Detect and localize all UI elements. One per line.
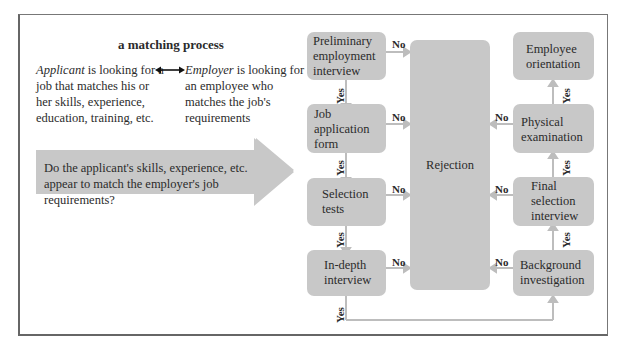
- step-physical-examination: Physical examination: [513, 104, 594, 153]
- rejection-box: Rejection: [410, 40, 490, 290]
- no-label: No: [495, 111, 508, 123]
- yes-label: Yes: [334, 232, 346, 248]
- step-final-selection-interview: Final selection interview: [513, 177, 594, 226]
- no-label: No: [495, 256, 508, 268]
- no-label: No: [495, 183, 508, 195]
- yes-label: Yes: [560, 232, 572, 248]
- step-background-investigation: Background investigation: [513, 250, 594, 296]
- step-in-depth-interview: In-depth interview: [307, 250, 386, 296]
- yes-label: Yes: [334, 160, 346, 176]
- no-label: No: [392, 183, 405, 195]
- step-selection-tests: Selection tests: [307, 178, 386, 226]
- yes-label: Yes: [334, 307, 346, 323]
- no-label: No: [392, 38, 405, 50]
- yes-label: Yes: [560, 88, 572, 104]
- step-preliminary-interview: Preliminary employment interview: [307, 32, 386, 80]
- no-label: No: [392, 111, 405, 123]
- yes-label: Yes: [334, 88, 346, 104]
- yes-label: Yes: [560, 160, 572, 176]
- step-employee-orientation: Employee orientation: [513, 32, 594, 80]
- step-job-application-form: Job application form: [307, 104, 386, 153]
- no-label: No: [392, 256, 405, 268]
